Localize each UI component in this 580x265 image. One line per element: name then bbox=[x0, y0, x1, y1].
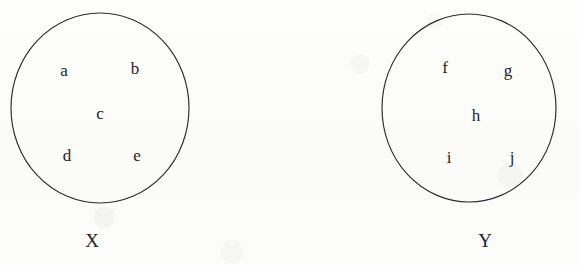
set-y-member-i: i bbox=[447, 149, 452, 166]
set-y-member-g: g bbox=[504, 62, 513, 79]
set-y-member-h: h bbox=[472, 107, 481, 124]
diagram-canvas: a b c d e X f g h i j Y bbox=[0, 0, 580, 265]
set-y-boundary bbox=[382, 14, 556, 202]
set-y-member-j: j bbox=[510, 149, 515, 166]
set-y-member-f: f bbox=[442, 59, 448, 76]
set-y-label: Y bbox=[478, 231, 492, 250]
set-y-circle bbox=[0, 0, 580, 265]
